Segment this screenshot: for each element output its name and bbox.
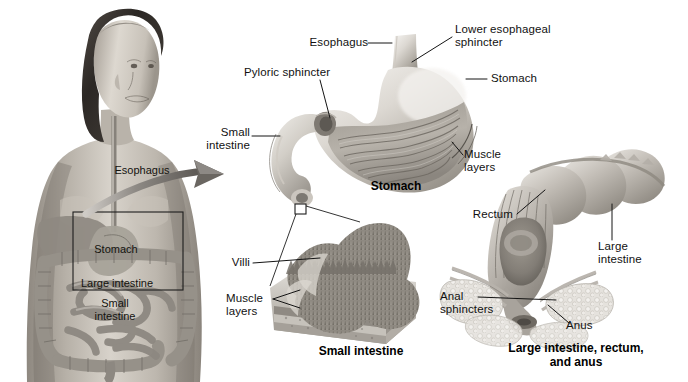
caption-large-intestine-rectum-anus: Large intestine, rectum, and anus bbox=[486, 341, 666, 369]
stomach-label-pyloric-sphincter: Pyloric sphincter bbox=[244, 66, 354, 79]
large-intestine-label-anal-sphincters: Anal sphincters bbox=[440, 290, 516, 316]
stomach-label-stomach: Stomach bbox=[491, 72, 561, 85]
stomach-label-small-intestine: Small intestine bbox=[194, 126, 250, 152]
stomach-label-esophagus: Esophagus bbox=[286, 36, 368, 49]
stomach-label-lower-esophageal-sphincter: Lower esophageal sphincter bbox=[455, 23, 585, 49]
digestive-system-figure: Esophagus Stomach Large intestine Small … bbox=[0, 0, 688, 382]
large-intestine-label-rectum: Rectum bbox=[451, 208, 513, 221]
large-intestine-label-large-intestine: Large intestine bbox=[598, 240, 660, 266]
body-label-esophagus: Esophagus bbox=[99, 164, 185, 177]
caption-small-intestine: Small intestine bbox=[300, 344, 422, 358]
small-intestine-label-muscle-layers: Muscle layers bbox=[226, 292, 288, 318]
body-label-small-intestine: Small intestine bbox=[80, 297, 150, 323]
large-intestine-label-anus: Anus bbox=[566, 319, 612, 332]
body-label-stomach: Stomach bbox=[82, 243, 150, 256]
caption-stomach: Stomach bbox=[362, 179, 430, 193]
body-label-large-intestine: Large intestine bbox=[62, 277, 172, 290]
stomach-label-muscle-layers: Muscle layers bbox=[464, 148, 524, 174]
small-intestine-label-villi: Villi bbox=[206, 256, 250, 269]
villi-detail-box bbox=[295, 204, 306, 214]
